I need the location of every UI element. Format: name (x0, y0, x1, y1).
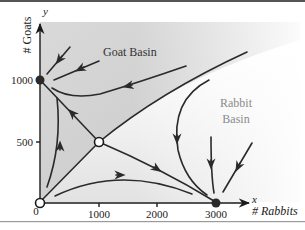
x-axis-title: # Rabbits (252, 204, 298, 218)
rabbit-basin-label-1: Rabbit (220, 96, 253, 110)
goat-basin-label: Goat Basin (103, 45, 157, 59)
y-tick-label-500: 500 (17, 136, 34, 148)
x-tick-label-3000: 3000 (205, 208, 228, 220)
y-axis-title: # Goats (20, 16, 34, 53)
goat-traj-long-arrow (128, 85, 132, 86)
goat-node-equilibrium (36, 76, 45, 85)
y-axis-var: y (42, 5, 48, 17)
x-tick-label-1000: 1000 (88, 208, 111, 220)
rabbit-basin-label-2: Basin (222, 112, 249, 126)
x-tick-label-2000: 2000 (146, 208, 169, 220)
y-tick-label-1000: 1000 (11, 74, 34, 86)
origin-equilibrium (36, 199, 45, 208)
rabbit-node-equilibrium (212, 199, 221, 208)
phase-portrait-figure: 0 1000 2000 3000 500 1000 x # Rabbits y … (0, 0, 305, 230)
top-border (0, 0, 305, 2)
goat-basin-fade (40, 22, 305, 202)
bottom-border (0, 221, 305, 222)
saddle-equilibrium (95, 138, 104, 147)
